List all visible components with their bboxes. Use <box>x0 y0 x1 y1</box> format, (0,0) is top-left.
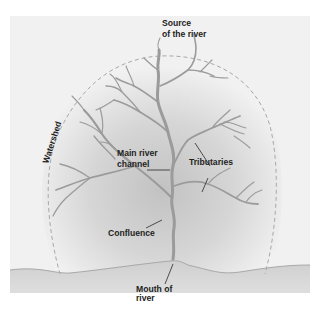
label-source-line1: Source <box>162 18 191 28</box>
river-diagram: Source of the river Watershed Main river… <box>10 16 310 293</box>
label-source-line2: of the river <box>162 29 207 39</box>
river-diagram-frame: Source of the river Watershed Main river… <box>10 16 310 293</box>
label-mouth-line1: Mouth of <box>136 284 172 293</box>
label-main-channel-line1: Main river <box>117 148 158 158</box>
label-confluence: Confluence <box>108 228 155 238</box>
label-mouth-line2: river <box>136 293 155 303</box>
label-main-channel-line2: channel <box>117 159 149 169</box>
label-tributaries: Tributaries <box>189 157 233 167</box>
